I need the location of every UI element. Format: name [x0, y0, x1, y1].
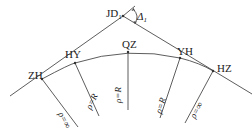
point-qz [127, 51, 129, 53]
radius-label-qz: ρ=R [113, 87, 123, 104]
tangent-extension [123, 6, 135, 16]
label-delta: Δ1 [136, 10, 147, 24]
point-hz [212, 70, 214, 72]
point-hy [74, 62, 76, 64]
radius-label-yh: ρ=R [153, 96, 168, 116]
label-yh: YH [177, 45, 193, 57]
radius-label-hy: ρ=R [83, 92, 99, 112]
radius-label-zh: ρ=∞ [56, 109, 73, 129]
point-yh [179, 57, 181, 59]
curve-diagram: JD1 Δ1 ZH HY QZ YH HZ ρ=∞ ρ=R ρ=R ρ=R ρ=… [0, 0, 252, 133]
point-jd [122, 15, 125, 18]
label-jd: JD1 [106, 7, 122, 21]
label-hz: HZ [217, 62, 232, 74]
label-zh: ZH [28, 69, 43, 81]
label-hy: HY [65, 48, 81, 60]
label-qz: QZ [122, 38, 137, 50]
radius-label-hz: ρ=∞ [187, 100, 204, 120]
